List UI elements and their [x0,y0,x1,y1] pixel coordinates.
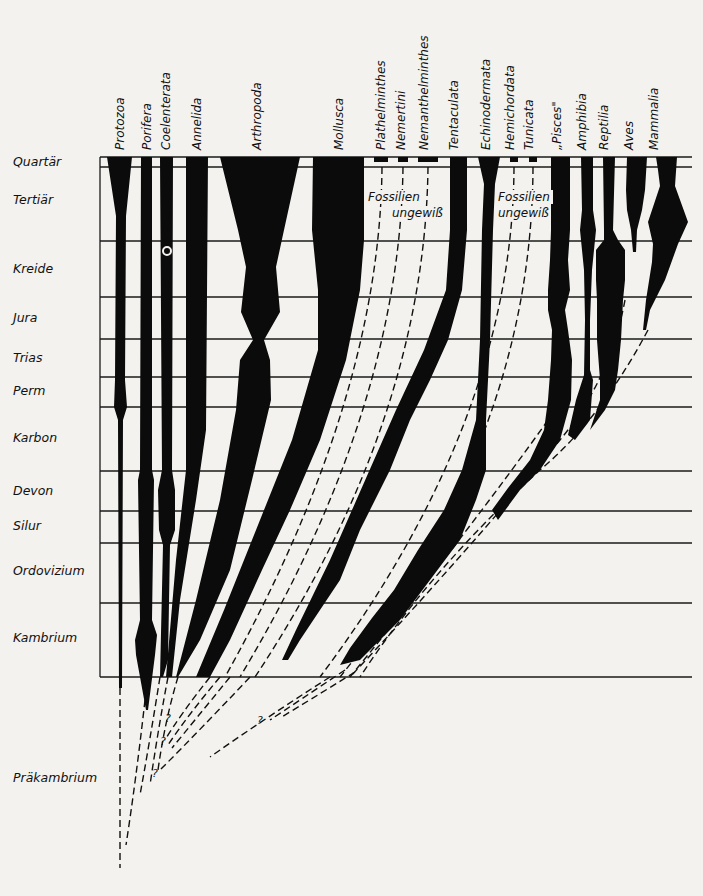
marker-tunicata [529,157,537,162]
period-label-praekambrium: Präkambrium [13,770,97,785]
range-reptilia [590,157,625,430]
period-label-karbon: Karbon [13,430,57,445]
dashed-lineage-f [280,672,355,718]
taxon-label-tunicata: Tunicata [522,99,536,150]
marker-hemichordata [510,157,518,162]
annotation-fossils-uncertain-1-line1: Fossilien [368,190,420,204]
question-mark-1: ? [165,712,171,725]
taxon-label-nemertini: Nemertini [394,90,408,150]
dashed-lineage-porifera [126,700,145,845]
annotation-fossils-uncertain-2-line1: Fossilien [498,190,550,204]
taxon-label-annelida: Annelida [190,98,204,151]
taxon-label-hemichordata: Hemichordata [503,65,517,150]
taxon-label-coelenterata: Coelenterata [159,72,173,150]
taxon-label-tentaculata: Tentaculata [447,80,461,150]
annotation-fossils-uncertain-1-line2: ungewiß [392,206,443,220]
taxon-label-mollusca: Mollusca [332,98,346,150]
question-mark-3: ? [152,767,158,780]
question-mark-2: ? [160,735,166,748]
taxon-labels: Protozoa Porifera Coelenterata Annelida … [113,35,661,151]
period-labels: Quartär Tertiär Kreide Jura Trias Perm K… [10,154,97,785]
taxon-label-pisces: „Pisces" [550,101,564,150]
taxon-label-protozoa: Protozoa [113,97,127,150]
marker-nemertini [398,157,408,162]
period-label-kambrium: Kambrium [13,630,77,645]
taxon-label-nemanthelminthes: Nemanthelminthes [417,35,431,150]
taxon-label-arthropoda: Arthropoda [250,82,264,151]
period-label-tertiaer: Tertiär [13,192,54,207]
period-label-silur: Silur [13,518,42,533]
marker-nemanthelminthes [418,157,438,162]
taxon-label-aves: Aves [622,121,636,151]
period-label-trias: Trias [13,350,43,365]
taxon-label-amphibia: Amphibia [575,93,589,151]
period-label-ordovizium: Ordovizium [13,563,85,578]
annotation-fossils-uncertain-2-line2: ungewiß [498,206,549,220]
dashed-lineage-tunicata [340,167,533,677]
range-aves [626,157,647,252]
question-mark-4: ? [257,714,263,727]
range-porifera [135,157,157,710]
period-label-quartaer: Quartär [13,154,62,169]
taxon-label-mammalia: Mammalia [647,88,661,150]
period-label-perm: Perm [13,383,46,398]
period-label-kreide: Kreide [13,261,53,276]
taxon-label-plathelminthes: Plathelminthes [374,60,388,150]
range-protozoa [107,157,132,688]
range-amphibia [568,157,596,440]
taxon-label-reptilia: Reptilia [597,105,611,150]
period-label-devon: Devon [13,483,53,498]
period-label-jura: Jura [10,310,37,325]
taxon-label-porifera: Porifera [140,103,154,150]
dashed-lineage-d [210,677,330,757]
range-coelenterata [158,157,175,677]
phylogeny-diagram: Protozoa Porifera Coelenterata Annelida … [0,0,703,896]
range-mammalia [643,157,688,330]
dashed-lineage-mollusca [165,677,210,740]
taxon-ranges [107,157,688,710]
marker-plathelminthes [374,157,388,162]
taxon-label-echinodermata: Echinodermata [479,59,493,150]
